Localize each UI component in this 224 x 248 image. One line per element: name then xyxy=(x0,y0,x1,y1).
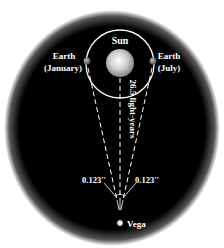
earth-january-icon xyxy=(84,58,91,65)
earth-january-label: Earth xyxy=(53,51,76,61)
parallax-angle-right-label: 0.123'' xyxy=(135,175,159,185)
parallax-angle-left-label: 0.123'' xyxy=(82,175,106,185)
earth-january-sublabel: (January) xyxy=(44,63,82,73)
vega-label: Vega xyxy=(127,219,146,229)
vega-star-icon xyxy=(116,219,124,227)
earth-july-icon xyxy=(150,58,157,65)
sun-icon xyxy=(106,49,134,77)
parallax-diagram: Sun Earth (January) Earth (July) 26.5 li… xyxy=(0,0,224,248)
distance-label: 26.5 light-years xyxy=(128,80,138,139)
sun-label: Sun xyxy=(112,35,129,46)
earth-july-label: Earth xyxy=(158,51,181,61)
earth-july-sublabel: (July) xyxy=(158,63,181,73)
